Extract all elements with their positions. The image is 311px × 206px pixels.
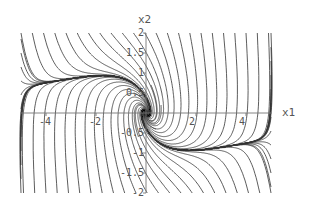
y-tick-label: 1 (138, 68, 144, 78)
y-tick-label: -0.5 (120, 128, 144, 138)
x-tick-label: 2 (189, 117, 195, 127)
y-tick-label: 1.5 (126, 48, 144, 58)
trajectory (141, 109, 215, 193)
x-tick-label: -4 (39, 117, 51, 127)
x-axis-label: x1 (282, 107, 295, 118)
trajectory (142, 110, 272, 159)
y-tick-label: -1 (132, 148, 144, 158)
y-tick-label: -1.5 (120, 168, 144, 178)
y-tick-label: -2 (132, 188, 144, 198)
y-tick-label: 0.5 (126, 88, 144, 98)
trajectory (32, 33, 150, 116)
y-tick-label: 2 (138, 28, 144, 38)
x-tick-label: 4 (239, 117, 245, 127)
phase-portrait-plot (0, 0, 311, 206)
axes (20, 33, 272, 193)
y-axis-label: x2 (138, 14, 151, 25)
trajectory (142, 33, 238, 150)
x-tick-label: -2 (89, 117, 101, 127)
